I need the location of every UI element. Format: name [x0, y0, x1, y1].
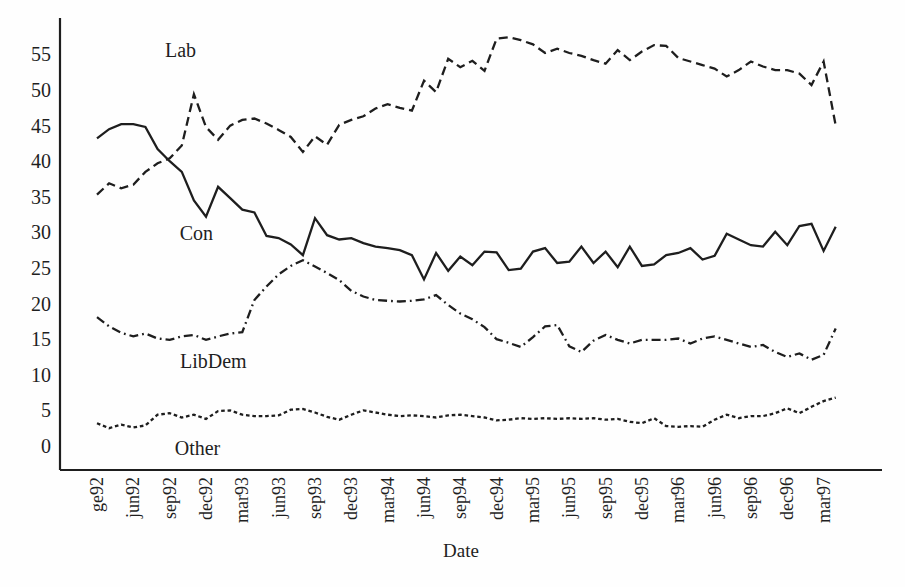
series-line-lab [97, 37, 836, 194]
x-tick-label-jun93: jun93 [269, 477, 289, 519]
y-tick-label-15: 15 [31, 328, 51, 350]
y-tick-label-50: 50 [31, 79, 51, 101]
series-line-con [97, 124, 836, 279]
series-line-other [97, 398, 836, 429]
y-tick-label-10: 10 [31, 364, 51, 386]
x-tick-label-dec94: dec94 [487, 477, 507, 520]
x-tick-label-mar94: mar94 [378, 477, 398, 523]
y-tick-label-35: 35 [31, 186, 51, 208]
x-tick-label-sep93: sep93 [305, 477, 325, 519]
x-tick-label-sep94: sep94 [450, 477, 470, 519]
figure-page: 0510152025303540455055ge92jun92sep92dec9… [0, 0, 905, 587]
x-tick-label-sep95: sep95 [596, 477, 616, 519]
x-tick-label-jun96: jun96 [705, 477, 725, 519]
y-tick-label-30: 30 [31, 221, 51, 243]
series-label-libdem: LibDem [180, 350, 247, 372]
series-label-con: Con [180, 222, 213, 244]
series-label-lab: Lab [165, 39, 196, 61]
series-label-other: Other [175, 437, 221, 459]
x-tick-label-mar96: mar96 [668, 477, 688, 523]
y-tick-label-0: 0 [41, 435, 51, 457]
poll-trend-chart: 0510152025303540455055ge92jun92sep92dec9… [0, 0, 905, 587]
x-tick-label-sep92: sep92 [160, 477, 180, 519]
x-tick-label-ge92: ge92 [87, 477, 107, 512]
x-tick-label-jun94: jun94 [414, 477, 434, 519]
x-tick-label-dec93: dec93 [341, 477, 361, 520]
x-tick-label-dec96: dec96 [777, 477, 797, 520]
y-tick-label-25: 25 [31, 257, 51, 279]
y-tick-label-5: 5 [41, 399, 51, 421]
x-tick-label-mar93: mar93 [232, 477, 252, 523]
y-tick-label-45: 45 [31, 115, 51, 137]
x-tick-label-dec92: dec92 [196, 477, 216, 520]
y-tick-label-40: 40 [31, 150, 51, 172]
x-tick-label-jun95: jun95 [559, 477, 579, 519]
series-line-libdem [97, 260, 836, 360]
x-tick-label-jun92: jun92 [123, 477, 143, 519]
x-tick-label-mar97: mar97 [814, 477, 834, 523]
x-tick-label-mar95: mar95 [523, 477, 543, 523]
x-axis-title: Date [443, 540, 479, 561]
x-tick-label-sep96: sep96 [741, 477, 761, 519]
y-tick-label-55: 55 [31, 43, 51, 65]
x-tick-label-dec95: dec95 [632, 477, 652, 520]
y-tick-label-20: 20 [31, 293, 51, 315]
